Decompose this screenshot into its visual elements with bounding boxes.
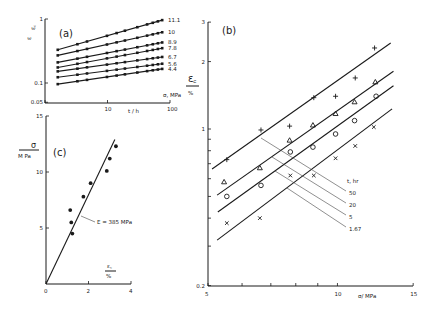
panel-a-data-point bbox=[146, 64, 149, 67]
panel-a-data-point bbox=[115, 55, 118, 58]
panel-a-data-point bbox=[106, 43, 109, 46]
panel-a-data-point bbox=[76, 63, 79, 66]
panel-b-y-label-den: % bbox=[188, 90, 193, 96]
panel-c-data-point bbox=[70, 232, 74, 236]
panel-c-x-label-den: % bbox=[106, 273, 111, 279]
panel-c-y-tick-label: 10 bbox=[36, 169, 43, 175]
panel-a-data-point bbox=[124, 67, 127, 70]
panel-a-data-point bbox=[76, 43, 79, 46]
panel-b-cross-marker bbox=[289, 174, 293, 178]
panel-a-data-point bbox=[151, 64, 154, 67]
panel-b-cross-marker bbox=[372, 125, 376, 129]
panel-a-data-point bbox=[106, 76, 109, 79]
panel-a-data-point bbox=[151, 49, 154, 52]
panel-a-data-point bbox=[106, 63, 109, 66]
panel-a-data-point bbox=[56, 61, 59, 64]
panel-c-x-tick-label: 2 bbox=[87, 288, 91, 294]
panel-b-y-tick-label: 3 bbox=[202, 19, 206, 25]
panel-a-data-point bbox=[151, 69, 154, 72]
panel-b-plus-marker bbox=[258, 127, 263, 132]
panel-b-triangle-marker bbox=[333, 111, 338, 115]
panel-a-data-point bbox=[146, 44, 149, 47]
panel-b-x-label: σ/ MPa bbox=[358, 293, 376, 299]
panel-a-data-point bbox=[115, 62, 118, 65]
panel-a-data-point bbox=[76, 80, 79, 83]
panel-a-data-point bbox=[157, 56, 160, 59]
panel-a: 101000.050.11 11.1108.97.86.75.64.4 (a) … bbox=[25, 16, 181, 114]
panel-a-data-point bbox=[136, 51, 139, 54]
panel-b-triangle-marker bbox=[287, 138, 292, 142]
panel-c-data-point bbox=[114, 144, 118, 148]
panel-a-data-point bbox=[161, 68, 164, 71]
panel-a-data-point bbox=[157, 48, 160, 51]
panel-a-data-point bbox=[124, 54, 127, 57]
panel-b-plus-marker bbox=[372, 45, 377, 50]
panel-b-plus-marker bbox=[353, 75, 358, 80]
panel-a-data-point bbox=[76, 67, 79, 70]
panel-b-triangle-marker bbox=[222, 179, 227, 183]
panel-b-x-tick-label: 15 bbox=[410, 291, 417, 297]
figure: 101000.050.11 11.1108.97.86.75.64.4 (a) … bbox=[0, 0, 435, 315]
panel-a-data-point bbox=[161, 56, 164, 59]
panel-a-data-point bbox=[86, 61, 89, 64]
panel-a-data-point bbox=[115, 32, 118, 35]
panel-a-x-tick-label: 10 bbox=[105, 106, 112, 112]
panel-a-data-point bbox=[136, 36, 139, 39]
panel-b-series-line bbox=[217, 109, 392, 240]
panel-c-annotation: E = 385 MPa bbox=[97, 219, 132, 225]
panel-b-circle-marker bbox=[225, 194, 230, 199]
panel-c-annotation-leader bbox=[81, 216, 95, 222]
panel-a-data-point bbox=[86, 66, 89, 69]
panel-a-data-point bbox=[124, 39, 127, 42]
panel-a-data-point bbox=[136, 59, 139, 62]
panel-a-series-label: 6.7 bbox=[168, 54, 177, 60]
panel-a-data-point bbox=[124, 73, 127, 76]
panel-b-legend-title: t, hr bbox=[347, 178, 359, 184]
panel-b-y-label-num: ε꜀ bbox=[188, 73, 197, 84]
panel-c-y-tick-label: 15 bbox=[36, 113, 43, 119]
panel-c-x-tick-label: 4 bbox=[129, 288, 133, 294]
panel-b-legend-label: 1.67 bbox=[349, 226, 362, 232]
panel-b-circle-marker bbox=[288, 150, 293, 155]
panel-a-data-point bbox=[161, 47, 164, 50]
panel-a-data-point bbox=[86, 40, 89, 43]
panel-b-circle-marker bbox=[352, 118, 357, 123]
panel-a-data-point bbox=[161, 19, 164, 22]
panel-a-data-point bbox=[157, 32, 160, 35]
panel-a-legend-title: σ, MPa bbox=[163, 92, 181, 98]
panel-a-data-point bbox=[76, 50, 79, 53]
panel-b-cross-marker bbox=[258, 216, 262, 220]
panel-a-data-point bbox=[76, 57, 79, 60]
panel-a-series-label: 11.1 bbox=[168, 17, 180, 23]
panel-c: 02451015 (c) σ M Pa ε꜀ % E = 385 MPa bbox=[18, 113, 133, 294]
panel-a-data-point bbox=[56, 54, 59, 57]
panel-a-data-point bbox=[146, 70, 149, 73]
panel-a-data-point bbox=[161, 31, 164, 34]
panel-a-y-label-den: ε꜀ bbox=[29, 25, 36, 30]
panel-a-data-point bbox=[151, 43, 154, 46]
panel-c-data-point bbox=[82, 195, 86, 199]
panel-a-data-point bbox=[56, 49, 59, 52]
panel-a-data-point bbox=[86, 72, 89, 75]
panel-b-series-line bbox=[218, 86, 394, 212]
panel-a-y-label: ε ε꜀ bbox=[25, 25, 36, 40]
panel-a-data-point bbox=[146, 34, 149, 37]
panel-b-legend-label: 50 bbox=[349, 190, 356, 196]
panel-c-y-label-den: M Pa bbox=[18, 153, 31, 159]
panel-a-data-point bbox=[86, 79, 89, 82]
panel-a-data-point bbox=[146, 23, 149, 26]
panel-a-data-point bbox=[106, 70, 109, 73]
panel-b-series-line bbox=[217, 71, 393, 195]
panel-b-series-line bbox=[212, 43, 391, 169]
panel-b-x-tick-label: 10 bbox=[334, 291, 341, 297]
panel-b-legend-label: 20 bbox=[349, 202, 356, 208]
panel-a-data-point bbox=[115, 50, 118, 53]
panel-a-data-point bbox=[146, 50, 149, 53]
panel-a-data-point bbox=[136, 66, 139, 69]
panel-a-data-point bbox=[106, 57, 109, 60]
panel-a-data-point bbox=[157, 20, 160, 23]
panel-b-x-tick-label: 5 bbox=[205, 291, 209, 297]
panel-b-circle-marker bbox=[311, 145, 316, 150]
panel-a-data-point bbox=[115, 74, 118, 77]
panel-b-label: (b) bbox=[222, 25, 236, 36]
